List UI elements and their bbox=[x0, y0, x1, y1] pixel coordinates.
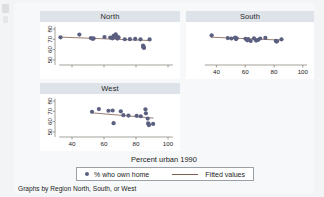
scan-artifact-top-left-2 bbox=[3, 16, 8, 23]
svg-text:50: 50 bbox=[46, 56, 53, 63]
legend-item-line: Fitted values bbox=[172, 171, 245, 178]
svg-text:60: 60 bbox=[101, 140, 108, 147]
panel-west-title-bar: West bbox=[40, 83, 180, 94]
panel-west-plot: 40608010050607080 bbox=[40, 94, 180, 151]
panel-west: West 40608010050607080 bbox=[40, 83, 180, 151]
panel-north-plot: 50607080 bbox=[40, 22, 180, 79]
panel-south: South 406080100 bbox=[186, 11, 314, 79]
panel-north-svg: 50607080 bbox=[40, 22, 180, 79]
svg-text:80: 80 bbox=[271, 68, 278, 75]
panel-south-title: South bbox=[240, 11, 260, 22]
svg-text:50: 50 bbox=[46, 128, 53, 135]
svg-text:40: 40 bbox=[69, 140, 76, 147]
scan-artifact-top-left bbox=[2, 4, 9, 13]
legend-line-label: Fitted values bbox=[205, 171, 245, 178]
x-axis-title: Percent urban 1990 bbox=[14, 155, 314, 164]
legend-fitline-icon bbox=[172, 174, 198, 175]
svg-text:60: 60 bbox=[46, 46, 53, 53]
svg-text:60: 60 bbox=[242, 68, 249, 75]
panel-west-title: West bbox=[101, 83, 118, 94]
legend: % who own home Fitted values bbox=[76, 167, 254, 181]
figure-canvas: North 50607080 South 406080100 West 4060… bbox=[14, 3, 314, 193]
svg-text:60: 60 bbox=[46, 118, 53, 125]
svg-text:40: 40 bbox=[213, 68, 220, 75]
panel-west-svg: 40608010050607080 bbox=[40, 94, 180, 151]
legend-marker-label: % who own home bbox=[94, 171, 149, 178]
panel-south-plot: 406080100 bbox=[186, 22, 314, 79]
svg-text:70: 70 bbox=[46, 35, 53, 42]
svg-text:100: 100 bbox=[163, 140, 174, 147]
legend-marker-icon bbox=[85, 172, 89, 176]
svg-text:80: 80 bbox=[133, 140, 140, 147]
panel-north: North 50607080 bbox=[40, 11, 180, 79]
page-background: North 50607080 South 406080100 West 4060… bbox=[0, 0, 324, 197]
svg-text:100: 100 bbox=[298, 68, 309, 75]
svg-text:70: 70 bbox=[46, 107, 53, 114]
panel-north-title-bar: North bbox=[40, 11, 180, 22]
svg-text:80: 80 bbox=[46, 25, 53, 32]
figure-caption: Graphs by Region North, South, or West bbox=[18, 185, 136, 192]
legend-item-marker: % who own home bbox=[85, 171, 149, 178]
panel-south-svg: 406080100 bbox=[186, 22, 314, 79]
svg-text:80: 80 bbox=[46, 97, 53, 104]
panel-north-title: North bbox=[101, 11, 120, 22]
panel-south-title-bar: South bbox=[186, 11, 314, 22]
